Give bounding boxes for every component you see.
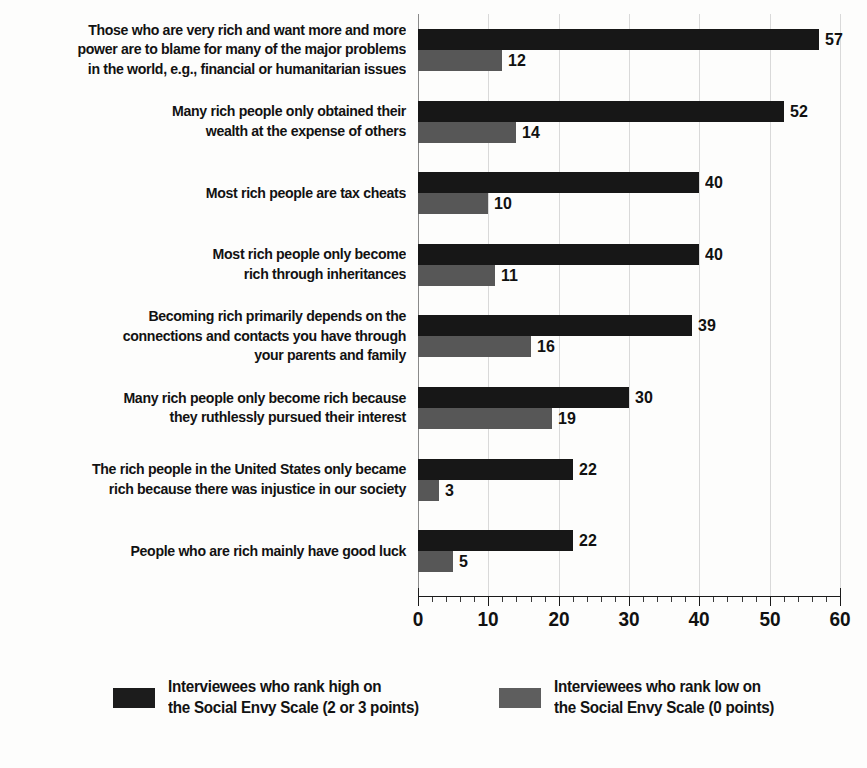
x-tick-minor-38 [685,597,686,602]
bar-value-high-envy: 30 [635,387,653,408]
x-tick-minor-26 [601,597,602,602]
x-axis: 0102030405060 [418,596,841,636]
bar-high-envy [418,101,784,122]
x-tick-minor-44 [727,597,728,602]
bar-low-envy [418,50,502,71]
x-axis-end-cap-0 [418,588,419,597]
x-tick-minor-2 [432,597,433,602]
bar-low-envy [418,480,439,501]
category-label: Most rich people only becomerich through… [40,244,406,283]
x-tick-major-40 [699,597,700,606]
category-label: People who are rich mainly have good luc… [40,541,406,560]
bar-value-low-envy: 11 [501,265,518,286]
bar-value-high-envy: 22 [579,530,597,551]
category-label-line: Many rich people only obtained their [172,102,406,119]
bar-value-low-envy: 12 [508,50,526,71]
bar-low-envy [418,408,552,429]
x-tick-label-10: 10 [478,608,499,631]
category-label: Becoming rich primarily depends on theco… [40,306,406,364]
category-label-line: connections and contacts you have throug… [123,327,406,344]
category-label: Many rich people only obtained theirweal… [40,101,406,140]
x-tick-minor-8 [474,597,475,602]
chart-figure: Those who are very rich and want more an… [0,0,867,768]
x-tick-minor-56 [812,597,813,602]
bar-value-low-envy: 14 [522,122,540,143]
x-tick-minor-4 [446,597,447,602]
category-label-line: rich because there was injustice in our … [109,480,406,497]
bar-value-low-envy: 5 [459,551,468,572]
bar-high-envy [418,530,573,551]
category-label-line: Many rich people only become rich becaus… [123,389,406,406]
x-tick-major-20 [559,597,560,606]
chart-legend: Interviewees who rank high on the Social… [0,676,867,746]
category-label: Most rich people are tax cheats [40,183,406,202]
bar-value-high-envy: 39 [698,315,716,336]
x-tick-label-20: 20 [548,608,569,631]
category-label-line: Becoming rich primarily depends on the [148,307,406,324]
category-label-line: rich through inheritances [244,265,406,282]
bar-low-envy [418,336,531,357]
category-label-line: they ruthlessly pursued their interest [170,408,406,425]
legend-swatch-icon [113,688,155,708]
x-tick-minor-34 [657,597,658,602]
x-tick-minor-46 [742,597,743,602]
category-label: The rich people in the United States onl… [40,459,406,498]
x-tick-minor-18 [545,597,546,602]
x-tick-minor-58 [826,597,827,602]
bar-value-low-envy: 16 [537,336,555,357]
category-label: Those who are very rich and want more an… [40,20,406,78]
x-tick-major-10 [488,597,489,606]
x-tick-minor-24 [587,597,588,602]
category-label-line: your parents and family [254,346,406,363]
category-label: Many rich people only become rich becaus… [40,388,406,427]
x-tick-major-0 [418,597,419,606]
x-tick-label-0: 0 [413,608,424,631]
bar-value-high-envy: 40 [705,172,723,193]
bar-low-envy [418,551,453,572]
bar-low-envy [418,193,488,214]
bar-value-low-envy: 3 [445,480,454,501]
x-tick-major-30 [629,597,630,606]
bar-high-envy [418,172,699,193]
bar-high-envy [418,244,699,265]
x-tick-label-50: 50 [759,608,780,631]
bar-value-low-envy: 10 [494,193,512,214]
legend-item-high-envy[interactable]: Interviewees who rank high on the Social… [113,676,435,718]
x-tick-major-60 [840,597,841,606]
x-tick-minor-54 [798,597,799,602]
x-tick-minor-6 [460,597,461,602]
x-tick-minor-16 [531,597,532,602]
category-label-line: The rich people in the United States onl… [92,460,406,477]
x-tick-minor-36 [671,597,672,602]
bar-high-envy [418,315,692,336]
bar-high-envy [418,387,629,408]
bar-low-envy [418,265,495,286]
bar-high-envy [418,29,819,50]
gridline-60 [840,14,841,596]
x-tick-minor-12 [502,597,503,602]
legend-swatch-icon [499,688,541,708]
legend-item-low-envy[interactable]: Interviewees who rank low on the Social … [499,676,788,718]
x-tick-label-30: 30 [618,608,639,631]
x-tick-minor-22 [573,597,574,602]
bar-high-envy [418,459,573,480]
x-tick-major-50 [770,597,771,606]
category-label-line: Most rich people are tax cheats [206,184,406,201]
legend-label: Interviewees who rank low on the Social … [554,676,774,718]
bar-value-high-envy: 22 [579,459,597,480]
bar-value-high-envy: 57 [825,29,843,50]
legend-label: Interviewees who rank high on the Social… [168,676,419,718]
category-label-line: wealth at the expense of others [206,122,406,139]
category-label-line: People who are rich mainly have good luc… [130,542,406,559]
x-tick-label-60: 60 [829,608,850,631]
bar-value-low-envy: 19 [558,408,576,429]
x-tick-minor-42 [713,597,714,602]
category-label-line: in the world, e.g., financial or humanit… [88,60,406,77]
x-tick-minor-28 [615,597,616,602]
category-label-line: Those who are very rich and want more an… [88,21,406,38]
x-tick-minor-14 [516,597,517,602]
bar-value-high-envy: 52 [790,101,808,122]
x-tick-label-40: 40 [689,608,710,631]
category-label-line: Most rich people only become [213,245,406,262]
category-label-line: power are to blame for many of the major… [77,40,406,57]
